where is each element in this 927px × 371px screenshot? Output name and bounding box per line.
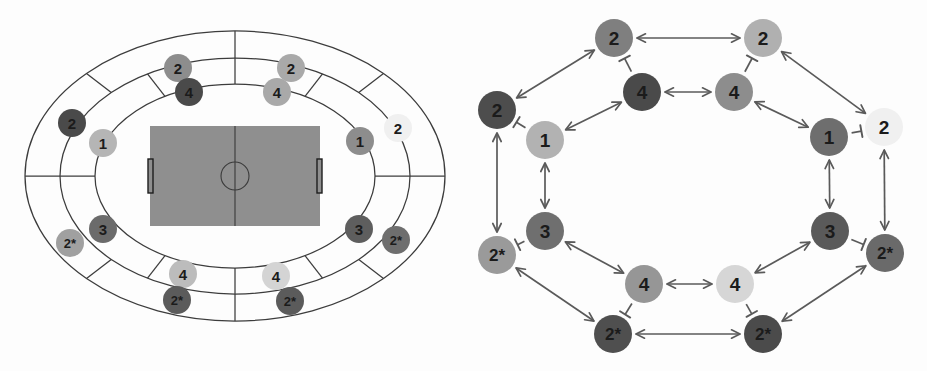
- edge-inhibition: [515, 239, 525, 250]
- network-node[interactable]: 4: [623, 73, 661, 111]
- network-node-circle[interactable]: [595, 19, 633, 57]
- edge-bidirectional: [565, 242, 623, 273]
- edge-bidirectional: [665, 88, 711, 96]
- inhibition-bar: [513, 117, 519, 127]
- network-node-circle[interactable]: [478, 91, 516, 129]
- network-node-circle[interactable]: [715, 73, 753, 111]
- stadium-zone-marker[interactable]: 4: [262, 262, 290, 290]
- network-node[interactable]: 4: [716, 265, 754, 303]
- sector-divider-outer-1: [359, 259, 384, 278]
- zone-marker-circle[interactable]: [263, 78, 291, 106]
- zone-marker-circle[interactable]: [169, 260, 197, 288]
- stadium-zone-marker[interactable]: 4: [175, 78, 203, 106]
- network-node[interactable]: 1: [526, 121, 564, 159]
- edge-line: [782, 266, 866, 322]
- stadium-zone-marker[interactable]: 2*: [276, 287, 304, 315]
- network-node[interactable]: 1: [810, 118, 848, 156]
- zone-marker-circle[interactable]: [89, 129, 117, 157]
- zone-marker-circle[interactable]: [346, 127, 374, 155]
- stadium-zone-marker[interactable]: 2*: [382, 226, 410, 254]
- network-node-circle[interactable]: [526, 212, 564, 250]
- sector-divider-middle-7: [305, 74, 323, 97]
- stadium-zone-marker[interactable]: 2: [277, 54, 305, 82]
- interaction-network: 2244211232*32*442*2*: [464, 0, 927, 371]
- edge-line: [517, 50, 595, 98]
- edge-line: [755, 102, 808, 127]
- goal-left: [148, 159, 153, 193]
- zone-marker-circle[interactable]: [382, 226, 410, 254]
- edge-inhibition: [746, 304, 757, 317]
- network-node-circle[interactable]: [623, 73, 661, 111]
- network-node[interactable]: 4: [625, 265, 663, 303]
- edge-line: [755, 242, 810, 273]
- stadium-zone-marker[interactable]: 2: [384, 114, 412, 142]
- edge-line: [625, 304, 632, 315]
- edge-line: [782, 52, 866, 114]
- goal-right: [317, 159, 322, 193]
- figure-root: 2424211232*32*42*42* 2244211232*32*442*2…: [0, 0, 927, 371]
- stadium-zone-marker[interactable]: 1: [346, 127, 374, 155]
- edge-line: [565, 242, 623, 273]
- network-nodes: 2244211232*32*442*2*: [478, 19, 904, 353]
- network-node-circle[interactable]: [744, 315, 782, 353]
- edge-bidirectional: [541, 163, 549, 208]
- edge-inhibition: [513, 117, 525, 128]
- network-node[interactable]: 2: [478, 91, 516, 129]
- network-node-circle[interactable]: [744, 19, 782, 57]
- zone-marker-circle[interactable]: [384, 114, 412, 142]
- network-node[interactable]: 2: [865, 108, 903, 146]
- sector-divider-middle-5: [148, 74, 166, 97]
- sector-divider-outer-7: [359, 73, 384, 92]
- network-node-circle[interactable]: [594, 315, 632, 353]
- edge-line: [517, 122, 526, 128]
- zone-marker-circle[interactable]: [164, 54, 192, 82]
- network-node-circle[interactable]: [716, 265, 754, 303]
- stadium-zone-marker[interactable]: 3: [345, 215, 373, 243]
- zone-marker-circle[interactable]: [163, 286, 191, 314]
- network-node-circle[interactable]: [526, 121, 564, 159]
- zone-marker-circle[interactable]: [58, 109, 86, 137]
- stadium-zone-marker[interactable]: 2: [58, 109, 86, 137]
- stadium-zone-marker[interactable]: 3: [89, 215, 117, 243]
- zone-marker-circle[interactable]: [175, 78, 203, 106]
- network-node[interactable]: 2*: [744, 315, 782, 353]
- zone-marker-circle[interactable]: [276, 287, 304, 315]
- network-node[interactable]: 3: [526, 212, 564, 250]
- stadium-zone-marker[interactable]: 1: [89, 129, 117, 157]
- edge-bidirectional: [782, 52, 866, 114]
- stadium-zone-marker[interactable]: 4: [169, 260, 197, 288]
- network-node-circle[interactable]: [810, 118, 848, 156]
- network-node[interactable]: 2*: [866, 234, 904, 272]
- zone-marker-circle[interactable]: [277, 54, 305, 82]
- edge-line: [746, 304, 752, 314]
- network-node-circle[interactable]: [865, 108, 903, 146]
- zone-marker-circle[interactable]: [345, 215, 373, 243]
- network-node-circle[interactable]: [866, 234, 904, 272]
- football-pitch: [148, 126, 322, 226]
- zone-marker-circle[interactable]: [56, 229, 84, 257]
- sector-divider-middle-3: [148, 256, 166, 279]
- network-node[interactable]: 3: [811, 212, 849, 250]
- network-node[interactable]: 2: [744, 19, 782, 57]
- stadium-zone-marker[interactable]: 4: [263, 78, 291, 106]
- edge-bidirectional: [755, 102, 808, 128]
- network-node[interactable]: 2*: [478, 236, 516, 274]
- zone-marker-circle[interactable]: [262, 262, 290, 290]
- edge-line: [566, 102, 622, 130]
- inhibition-bar: [860, 125, 862, 137]
- stadium-zone-marker[interactable]: 2*: [56, 229, 84, 257]
- sector-divider-outer-5: [87, 73, 112, 92]
- network-node-circle[interactable]: [811, 212, 849, 250]
- network-node-circle[interactable]: [478, 236, 516, 274]
- network-node[interactable]: 4: [715, 73, 753, 111]
- network-node[interactable]: 2*: [594, 315, 632, 353]
- edge-bidirectional: [637, 34, 740, 42]
- stadium-zone-marker[interactable]: 2: [164, 54, 192, 82]
- network-node-circle[interactable]: [625, 265, 663, 303]
- zone-marker-circle[interactable]: [89, 215, 117, 243]
- network-edges: [493, 34, 889, 338]
- stadium-zone-marker[interactable]: 2*: [163, 286, 191, 314]
- network-node[interactable]: 2: [595, 19, 633, 57]
- network-panel: 2244211232*32*442*2*: [464, 0, 927, 371]
- edge-bidirectional: [880, 150, 889, 230]
